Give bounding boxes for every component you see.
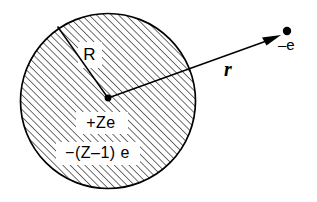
radius-label: R bbox=[83, 45, 95, 64]
atom-diagram: R +Ze −(Z–1) e r –e bbox=[0, 0, 317, 202]
electron-charge-label: –e bbox=[278, 36, 295, 53]
position-vector-label: r bbox=[224, 58, 232, 80]
figure-root: R +Ze −(Z–1) e r –e bbox=[0, 0, 317, 202]
nucleus-charge-label: +Ze bbox=[86, 114, 116, 131]
electron-point-dot bbox=[283, 27, 291, 35]
electron-cloud-charge-label: −(Z–1) e bbox=[65, 144, 130, 161]
nucleus-center-dot bbox=[105, 95, 112, 102]
